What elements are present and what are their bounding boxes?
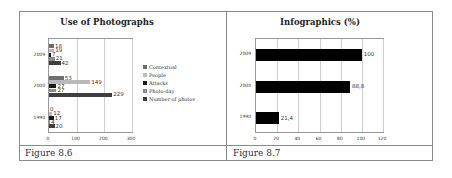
value-label: 19 [55,47,62,53]
x-tick-label: 60 [309,136,329,141]
x-tick-label: 300 [121,136,141,141]
x-tick-label: 80 [330,136,350,141]
legend-label: Number of photos [149,96,195,102]
chart1-title: Use of Photographs [47,17,167,27]
x-tick-label: 40 [287,136,307,141]
caption-figure-8-6: Figure 8.6 [25,148,72,158]
bar-number-of-photos [49,124,55,128]
bar-number-of-photos [49,61,61,65]
y-tick-label: 1990 [231,114,251,119]
y-tick-label: 2000 [26,83,45,88]
value-label: 229 [113,91,124,97]
gridline [383,39,384,132]
bar-infographics [256,112,279,124]
legend-swatch [143,73,147,77]
x-tick-label: 0 [245,136,265,141]
y-tick-label: 2009 [231,51,251,56]
x-tick-label: 120 [372,136,392,141]
value-label: 21,4 [281,115,293,121]
chart1-legend: ContextualPeopleAttacksPhoto-dayNumber o… [143,63,195,103]
chart1-plot-area: 18197214253149272722901217420 [48,38,133,133]
x-tick-label: 20 [266,136,286,141]
column-divider [226,12,227,160]
bar-infographics [256,81,350,93]
legend-label: Photo-day [149,88,174,94]
bar-number-of-photos [49,93,112,97]
legend-item: Contextual [143,63,195,71]
caption-divider [20,145,432,146]
chart2-plot-area: 10088,821,4 [255,38,384,133]
legend-swatch [143,65,147,69]
gridline [77,39,78,132]
value-label: 20 [56,123,63,129]
legend-item: People [143,71,195,79]
legend-swatch [143,81,147,85]
x-tick-label: 0 [38,136,58,141]
bar-infographics [256,49,362,61]
y-tick-label: 2009 [26,52,45,57]
value-label: 17 [55,115,62,121]
legend-swatch [143,89,147,93]
legend-label: People [149,72,166,78]
value-label: 149 [91,79,102,85]
value-label: 100 [364,51,375,57]
legend-swatch [143,97,147,101]
gridline [132,39,133,132]
x-tick-label: 200 [93,136,113,141]
legend-item: Photo-day [143,87,195,95]
legend-item: Number of photos [143,95,195,103]
legend-item: Attacks [143,79,195,87]
legend-label: Contextual [149,64,177,70]
x-tick-label: 100 [351,136,371,141]
value-label: 88,8 [352,83,364,89]
y-tick-label: 2000 [231,83,251,88]
y-tick-label: 1990 [26,115,45,120]
value-label: 42 [62,60,69,66]
x-tick-label: 100 [66,136,86,141]
caption-figure-8-7: Figure 8.7 [233,148,280,158]
chart2-title: Infographics (%) [255,17,385,27]
gridline [104,39,105,132]
legend-label: Attacks [149,80,168,86]
